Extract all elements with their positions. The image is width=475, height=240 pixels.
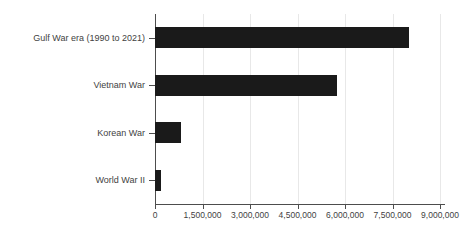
- x-axis-tick: [203, 204, 204, 209]
- bar-chart: Gulf War era (1990 to 2021)Vietnam WarKo…: [0, 0, 475, 240]
- y-axis-category-label: Korean War: [97, 128, 145, 138]
- bar: [155, 75, 337, 96]
- x-axis-tick: [155, 204, 156, 209]
- x-axis-line: [155, 204, 445, 205]
- x-axis-tick-label: 0: [153, 210, 158, 220]
- x-axis-tick-label: 4,500,000: [279, 210, 317, 220]
- x-axis-tick-label: 9,000,000: [421, 210, 459, 220]
- bar: [155, 122, 181, 143]
- x-axis-tick: [440, 204, 441, 209]
- x-axis-tick-label: 7,500,000: [374, 210, 412, 220]
- y-axis-category-label: Vietnam War: [93, 80, 145, 90]
- x-axis-tick-label: 1,500,000: [184, 210, 222, 220]
- bar: [155, 27, 409, 48]
- x-axis-tick-label: 6,000,000: [326, 210, 364, 220]
- x-axis-tick: [345, 204, 346, 209]
- x-axis-tick: [393, 204, 394, 209]
- x-axis-tick-label: 3,000,000: [231, 210, 269, 220]
- y-axis-category-label: Gulf War era (1990 to 2021): [33, 33, 145, 43]
- gridline: [440, 14, 441, 204]
- bar: [155, 170, 161, 191]
- y-axis-category-label: World War II: [95, 175, 145, 185]
- x-axis-tick: [298, 204, 299, 209]
- x-axis-tick: [250, 204, 251, 209]
